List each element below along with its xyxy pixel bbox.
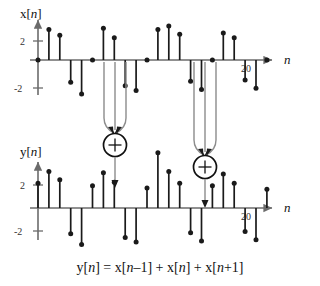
upper-sample-dot — [68, 80, 73, 85]
lower-sample-dot — [90, 183, 95, 188]
upper-sample-dot — [134, 88, 139, 93]
lower-sample-dot — [232, 181, 237, 186]
lower-sample-dot — [210, 183, 215, 188]
lower-plot: y[n] 2 -2 20 n — [14, 144, 291, 247]
lower-sample-dot — [36, 181, 41, 186]
lower-sample-dot — [243, 229, 248, 234]
upper-sample-dot — [101, 26, 106, 31]
upper-sample-dot — [199, 87, 204, 92]
lower-sample-dot — [112, 180, 117, 185]
lower-sample-dot — [145, 186, 150, 191]
adder-right-arrow-3 — [206, 62, 216, 155]
upper-sample-dot — [188, 79, 193, 84]
adder-right-arrow-1 — [194, 62, 204, 155]
lower-sample-dot — [123, 235, 128, 240]
equation-caption: y[n] = x[n–1] + x[n] + x[n+1] — [77, 260, 244, 275]
upper-signal-label: x[n] — [20, 6, 42, 21]
upper-sample-dot — [123, 83, 128, 88]
adder-left — [104, 62, 127, 188]
upper-sample-dot — [90, 58, 95, 63]
lower-xtick-20: 20 — [241, 211, 251, 222]
upper-sample-dot — [210, 58, 215, 63]
upper-ytick-neg2: -2 — [14, 83, 22, 94]
lower-sample-dot — [134, 240, 139, 245]
upper-xtick-20: 20 — [241, 63, 251, 74]
lower-sample-dot — [79, 242, 84, 247]
lower-sample-dot — [101, 170, 106, 175]
lower-stem-series — [36, 150, 270, 247]
lower-sample-dot — [166, 169, 171, 174]
lower-sample-dot — [46, 169, 51, 174]
upper-sample-dot — [46, 27, 51, 32]
lower-sample-dot — [264, 187, 269, 192]
upper-sample-dot — [177, 32, 182, 37]
adder-group — [104, 62, 217, 208]
upper-sample-dot — [57, 33, 62, 38]
lower-sample-dot — [57, 177, 62, 182]
upper-sample-dot — [155, 27, 160, 32]
upper-sample-dot — [243, 77, 248, 82]
upper-sample-dot — [112, 35, 117, 40]
lower-sample-dot — [199, 238, 204, 243]
upper-sample-dot — [166, 23, 171, 28]
upper-sample-dot — [79, 92, 84, 97]
upper-sample-dot — [254, 86, 259, 91]
upper-plot: x[n] 2 -2 20 n — [14, 6, 291, 97]
lower-sample-dot — [254, 237, 259, 242]
signal-flow-figure: x[n] 2 -2 20 n — [0, 0, 320, 286]
upper-ytick-2: 2 — [20, 36, 25, 47]
lower-ytick-neg2: -2 — [14, 226, 22, 237]
upper-sample-dot — [264, 58, 269, 63]
lower-n-axis-label: n — [284, 200, 291, 215]
upper-n-axis-label: n — [284, 52, 291, 67]
lower-signal-label: y[n] — [20, 144, 42, 159]
upper-sample-dot — [221, 30, 226, 35]
lower-sample-dot — [188, 230, 193, 235]
upper-sample-dot — [232, 35, 237, 40]
adder-left-arrow-1 — [104, 62, 114, 133]
adder-right-output-arrowhead — [202, 200, 209, 208]
upper-sample-dot — [145, 58, 150, 63]
lower-sample-dot — [155, 150, 160, 155]
upper-sample-dot — [36, 58, 41, 63]
lower-ytick-2: 2 — [20, 180, 25, 191]
lower-sample-dot — [177, 181, 182, 186]
lower-sample-dot — [68, 231, 73, 236]
lower-sample-dot — [221, 171, 226, 176]
